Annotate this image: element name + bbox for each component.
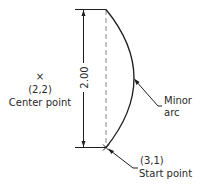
minor-arc-label-line1: Minor xyxy=(164,95,193,106)
dimension-arrow-bottom-icon xyxy=(82,141,86,147)
arc-diagram: 2.00 × (2,2) Center point Minor arc (3,1… xyxy=(0,0,204,188)
minor-arc xyxy=(106,10,134,148)
dimension-arrow-top-icon xyxy=(82,10,86,16)
start-point-label: Start point xyxy=(139,168,192,179)
center-point-coords: (2,2) xyxy=(28,84,52,95)
center-point-marker: × xyxy=(36,71,44,82)
start-point-coords: (3,1) xyxy=(140,155,164,166)
center-point-label: Center point xyxy=(9,97,71,108)
minor-arc-label-line2: arc xyxy=(164,107,180,118)
minor-arc-leader xyxy=(135,80,158,106)
dimension-label: 2.00 xyxy=(79,66,90,88)
